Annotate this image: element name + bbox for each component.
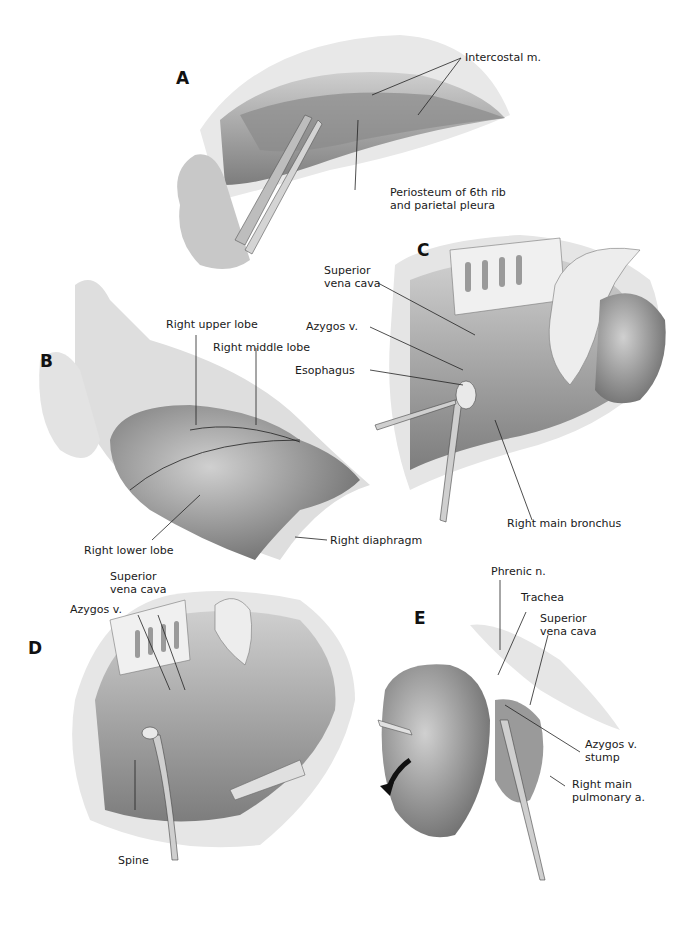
panel-letter-e: E xyxy=(414,608,426,628)
label-right-main-pulmonary-artery: Right main pulmonary a. xyxy=(572,778,645,804)
label-trachea: Trachea xyxy=(521,591,564,604)
label-superior-vena-cava: Superior vena cava xyxy=(324,264,381,290)
panel-a-artwork xyxy=(177,35,510,269)
label-right-middle-lobe: Right middle lobe xyxy=(213,341,310,354)
label-right-diaphragm: Right diaphragm xyxy=(330,534,422,547)
panel-e-artwork xyxy=(378,624,620,880)
panel-c-artwork xyxy=(375,235,666,522)
label-superior-vena-cava: Superior vena cava xyxy=(110,570,167,596)
label-esophagus: Esophagus xyxy=(295,364,355,377)
label-superior-vena-cava: Superior vena cava xyxy=(540,612,597,638)
label-azygos-vein: Azygos v. xyxy=(306,320,358,333)
label-intercostal-muscle: Intercostal m. xyxy=(465,51,541,64)
panel-letter-d: D xyxy=(28,638,42,658)
label-spine: Spine xyxy=(118,854,149,867)
label-right-upper-lobe: Right upper lobe xyxy=(166,318,258,331)
panel-letter-b: B xyxy=(40,351,53,371)
label-azygos-vein-stump: Azygos v. stump xyxy=(585,738,637,764)
rotation-arrow-icon xyxy=(378,778,379,779)
panel-letter-a: A xyxy=(176,68,189,88)
label-periosteum-6th-rib: Periosteum of 6th rib and parietal pleur… xyxy=(390,186,506,212)
panel-d-artwork xyxy=(72,591,355,860)
label-azygos-vein: Azygos v. xyxy=(70,603,122,616)
label-phrenic-nerve: Phrenic n. xyxy=(491,565,546,578)
label-right-lower-lobe: Right lower lobe xyxy=(84,544,174,557)
panel-letter-c: C xyxy=(417,240,429,260)
label-right-main-bronchus: Right main bronchus xyxy=(507,517,621,530)
